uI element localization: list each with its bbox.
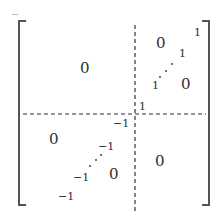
bottom-left-zero-lower: 0 [109,167,119,182]
matrix-lines [0,0,221,217]
top-right-zero-upper: 0 [156,36,166,51]
block-matrix-diagram: 0 0 0 1 1 1 1 −1 0 0 −1 −1 −1 0 [0,0,221,217]
top-right-dots [159,63,173,78]
bottom-left-neg-one-2: −1 [73,172,89,183]
center-one: 1 [139,101,146,112]
bottom-left-neg-one-1: −1 [98,141,114,152]
top-left-zero: 0 [80,61,90,76]
top-right-zero-lower: 0 [181,77,191,92]
center-neg-one: −1 [113,118,129,129]
top-right-one-3: 1 [152,80,159,91]
top-right-one-1: 1 [194,27,201,38]
bottom-left-neg-one-3: −1 [58,191,74,202]
bottom-right-zero: 0 [155,154,165,169]
bottom-left-zero-upper: 0 [49,132,59,147]
top-right-one-2: 1 [179,48,186,59]
bottom-left-dots [89,154,102,167]
left-bracket [18,21,26,205]
right-bracket [202,21,210,205]
